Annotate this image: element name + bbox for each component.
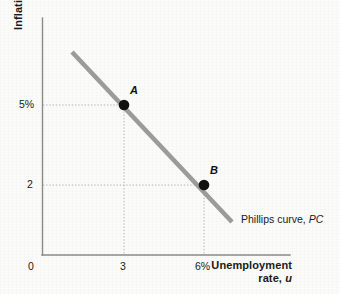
y-axis-title-text: Inflation rate, — [12, 0, 24, 30]
x-axis-title-line2: rate, u — [211, 272, 292, 285]
phillips-curve-plot — [0, 0, 340, 294]
y-tick-label-5-percent: 5% — [19, 98, 34, 110]
phillips-curve-line — [72, 52, 232, 222]
x-tick-label-3: 3 — [120, 260, 126, 272]
data-point-b — [199, 180, 210, 191]
x-tick-label-6-percent: 6% — [195, 260, 210, 272]
origin-label-0: 0 — [28, 260, 34, 272]
data-point-a — [119, 100, 130, 111]
data-point-a-label: A — [130, 84, 138, 96]
guide-lines — [43, 105, 204, 254]
phillips-curve-annotation: Phillips curve, PC — [241, 213, 323, 225]
phillips-curve-annotation-abbrev: PC — [309, 213, 324, 225]
x-axis-title: Unemployment rate, u — [211, 259, 292, 285]
x-axis-title-line2-prefix: rate, — [258, 272, 285, 284]
y-tick-label-2: 2 — [27, 178, 33, 190]
data-point-b-label: B — [210, 164, 218, 176]
phillips-curve-annotation-prefix: Phillips curve, — [241, 213, 309, 225]
x-axis-title-line1: Unemployment — [211, 259, 292, 272]
x-axis-variable-u: u — [285, 272, 292, 284]
y-axis-title: Inflation rate, π — [12, 0, 24, 30]
phillips-curve-figure: Inflation rate, π Unemployment rate, u 5… — [0, 0, 340, 294]
